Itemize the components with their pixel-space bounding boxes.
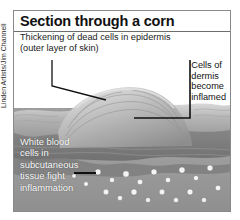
white-blood-cell — [179, 167, 185, 173]
white-blood-cell — [137, 179, 143, 185]
label-dermis: Cells of dermis become inflamed — [191, 60, 226, 102]
artist-credit: Linden Artists/Jim Channell — [0, 98, 110, 108]
white-blood-cell — [173, 197, 178, 202]
white-blood-cell — [103, 189, 109, 195]
caption-zone: Thickening of dead cells in epidermis (o… — [14, 32, 230, 60]
artist-credit-text: Linden Artists/Jim Channell — [0, 98, 7, 108]
title-band: Section through a corn — [14, 11, 230, 32]
white-blood-cell — [84, 182, 89, 187]
corn-cross-section-illustration: Cells of dermis become inflamed White bl… — [14, 60, 230, 212]
white-blood-cell — [109, 177, 114, 182]
label-white-blood-cells: White blood cells in subcutaneous tissue… — [20, 136, 78, 193]
white-blood-cell — [202, 198, 207, 203]
white-blood-cell — [151, 169, 157, 175]
white-blood-cell — [207, 165, 213, 171]
white-blood-cell — [193, 175, 198, 180]
white-blood-cell — [131, 189, 137, 195]
white-blood-cell — [146, 198, 151, 203]
white-blood-cell — [215, 185, 221, 191]
white-blood-cell — [123, 171, 129, 177]
white-blood-cell — [117, 195, 122, 200]
white-blood-cell — [165, 177, 170, 182]
white-blood-cell — [187, 189, 193, 195]
figure-frame: Section through a corn Thickening of dea… — [13, 10, 231, 212]
label-epidermis: Thickening of dead cells in epidermis (o… — [20, 32, 171, 53]
page-title: Section through a corn — [20, 13, 174, 29]
white-blood-cell — [159, 189, 165, 195]
